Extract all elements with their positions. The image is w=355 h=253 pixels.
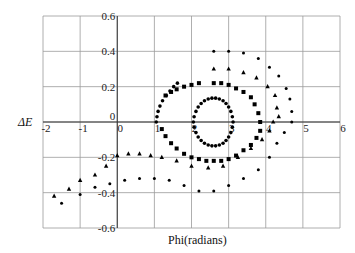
dot-marker xyxy=(192,120,196,124)
triangle-marker xyxy=(226,66,230,70)
triangle-marker xyxy=(254,75,258,79)
circle-marker xyxy=(108,182,111,185)
circle-marker xyxy=(290,110,293,113)
circle-marker xyxy=(268,156,271,159)
dot-marker xyxy=(221,141,225,145)
square-marker xyxy=(164,94,168,98)
square-marker xyxy=(175,147,179,151)
circle-marker xyxy=(268,66,271,69)
triangle-marker xyxy=(78,178,82,182)
square-marker xyxy=(204,159,208,163)
circle-marker xyxy=(283,131,286,134)
dot-marker xyxy=(196,135,200,139)
dot-marker xyxy=(214,96,218,100)
triangle-marker xyxy=(206,165,210,169)
triangle-marker xyxy=(115,153,119,157)
circle-marker xyxy=(79,193,82,196)
square-marker xyxy=(253,102,257,106)
circle-marker xyxy=(168,179,171,182)
dot-marker xyxy=(206,143,210,147)
square-marker xyxy=(234,86,238,90)
x-tick-label: 0 xyxy=(118,122,124,134)
dot-marker xyxy=(199,102,203,106)
x-axis-label: Phi(radians) xyxy=(168,233,227,247)
circle-marker xyxy=(212,50,215,53)
square-marker xyxy=(212,159,216,163)
triangle-marker xyxy=(260,137,264,141)
triangle-marker xyxy=(67,187,71,191)
triangle-marker xyxy=(241,70,245,74)
triangle-marker xyxy=(212,66,216,70)
circle-marker xyxy=(227,184,230,187)
dot-marker xyxy=(224,139,228,143)
square-marker xyxy=(190,155,194,159)
y-tick-label: -0.4 xyxy=(98,187,116,199)
square-marker xyxy=(258,120,262,124)
circle-marker xyxy=(197,189,200,192)
dot-marker xyxy=(196,105,200,109)
y-tick-label: 0.2 xyxy=(102,81,116,93)
dot-marker xyxy=(218,143,222,147)
triangle-marker xyxy=(174,158,178,162)
dot-marker xyxy=(158,104,162,108)
square-marker xyxy=(164,134,168,138)
circle-marker xyxy=(242,177,245,180)
square-marker xyxy=(219,81,223,85)
dot-marker xyxy=(156,110,160,114)
y-tick-label: 0 xyxy=(110,110,116,122)
dot-marker xyxy=(154,120,158,124)
y-tick-label: 0.6 xyxy=(102,10,116,22)
dot-marker xyxy=(192,115,196,119)
square-marker xyxy=(197,81,201,85)
triangle-marker xyxy=(189,164,193,168)
x-tick-label: 5 xyxy=(303,122,309,134)
dot-marker xyxy=(194,131,198,135)
dot-marker xyxy=(221,99,225,103)
square-marker xyxy=(241,90,245,94)
square-marker xyxy=(258,129,262,133)
dot-marker xyxy=(210,144,214,148)
square-marker xyxy=(227,157,231,161)
circle-marker xyxy=(153,177,156,180)
dot-marker xyxy=(231,120,235,124)
circle-marker xyxy=(275,142,278,145)
circle-marker xyxy=(138,177,141,180)
triangle-marker xyxy=(273,93,277,97)
dot-marker xyxy=(176,81,180,85)
dot-marker xyxy=(231,115,235,119)
circle-marker xyxy=(183,184,186,187)
y-tick-label: 0.4 xyxy=(102,45,116,57)
x-tick-label: -1 xyxy=(79,122,88,134)
dot-marker xyxy=(214,144,218,148)
triangle-marker xyxy=(277,114,281,118)
circle-marker xyxy=(212,189,215,192)
square-marker xyxy=(227,83,231,87)
square-marker xyxy=(254,136,258,140)
dot-marker xyxy=(227,105,231,109)
dot-marker xyxy=(227,135,231,139)
circle-marker xyxy=(242,52,245,55)
dot-marker xyxy=(161,99,165,103)
square-marker xyxy=(182,152,186,156)
triangle-marker xyxy=(137,151,141,155)
square-marker xyxy=(241,148,245,152)
dot-marker xyxy=(203,99,207,103)
triangle-marker xyxy=(93,172,97,176)
triangle-marker xyxy=(275,105,279,109)
triangle-marker xyxy=(160,155,164,159)
dot-marker xyxy=(206,97,210,101)
square-marker xyxy=(197,157,201,161)
circle-marker xyxy=(290,121,293,124)
y-tick-label: -0.2 xyxy=(98,151,115,163)
circle-marker xyxy=(277,75,280,78)
square-marker xyxy=(182,85,186,89)
dot-marker xyxy=(231,126,235,130)
circle-marker xyxy=(257,57,260,60)
square-marker xyxy=(249,95,253,99)
square-marker xyxy=(169,141,173,145)
square-marker xyxy=(160,127,164,131)
square-marker xyxy=(169,90,173,94)
x-tick-label: -2 xyxy=(41,122,50,134)
dot-marker xyxy=(199,139,203,143)
triangle-marker xyxy=(52,194,56,198)
